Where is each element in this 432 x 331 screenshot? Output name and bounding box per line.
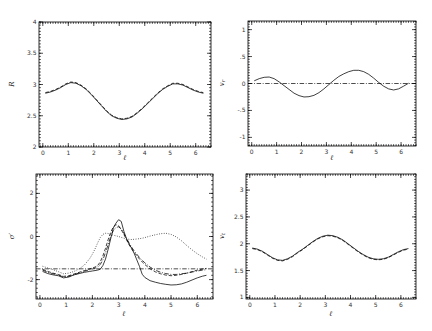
- svg-text:2.5: 2.5: [234, 213, 244, 220]
- svg-text:1.5: 1.5: [234, 267, 244, 274]
- svg-text:0: 0: [41, 149, 45, 156]
- svg-text:2: 2: [240, 240, 244, 247]
- svg-text:1: 1: [66, 149, 70, 156]
- svg-text:5: 5: [168, 149, 172, 156]
- panel-sigma-svg: 0123456-202: [0, 166, 216, 331]
- svg-text:0: 0: [250, 148, 254, 155]
- svg-text:2: 2: [30, 189, 34, 196]
- svg-text:6: 6: [194, 149, 198, 156]
- x-axis-label-panel-sigma: ℓ: [123, 311, 126, 318]
- svg-text:4: 4: [349, 148, 353, 155]
- panel-R: 012345622.533.54: [0, 0, 216, 166]
- panel-R-svg: 012345622.533.54: [0, 0, 216, 166]
- svg-text:5: 5: [169, 301, 173, 308]
- svg-text:1: 1: [273, 301, 277, 308]
- y-axis-label-vr: vr: [219, 80, 228, 86]
- svg-text:4: 4: [143, 149, 147, 156]
- svg-text:0: 0: [38, 301, 42, 308]
- four-panel-line-figure: 012345622.533.54 0123456-1-.50.51 012345…: [0, 0, 432, 331]
- svg-text:.5: .5: [240, 53, 246, 60]
- svg-text:6: 6: [399, 301, 403, 308]
- svg-text:-2: -2: [28, 276, 34, 283]
- svg-text:0: 0: [30, 233, 34, 240]
- panel-vt: 012345611.522.53: [216, 166, 432, 331]
- y-axis-label-vr-sub: r: [220, 80, 226, 82]
- x-axis-label-panel-vr: ℓ: [331, 155, 334, 162]
- y-axis-label-vr-main: v: [218, 82, 226, 86]
- svg-text:2: 2: [90, 301, 94, 308]
- panel-sigma: 0123456-202: [0, 166, 216, 331]
- svg-text:1: 1: [64, 301, 68, 308]
- svg-text:2: 2: [300, 148, 304, 155]
- svg-text:-.5: -.5: [238, 106, 246, 113]
- svg-text:0: 0: [242, 80, 246, 87]
- y-axis-label-vt-sub: t: [220, 233, 226, 235]
- svg-text:2: 2: [33, 143, 37, 150]
- svg-text:2: 2: [298, 301, 302, 308]
- panel-vr: 0123456-1-.50.51: [216, 0, 432, 166]
- svg-text:1: 1: [240, 293, 244, 300]
- svg-text:4: 4: [349, 301, 353, 308]
- y-axis-label-vt-main: v: [218, 235, 226, 239]
- svg-text:0: 0: [248, 301, 252, 308]
- svg-text:5: 5: [374, 301, 378, 308]
- svg-text:4: 4: [143, 301, 147, 308]
- svg-text:3: 3: [240, 186, 244, 193]
- svg-text:6: 6: [399, 148, 403, 155]
- svg-text:3: 3: [323, 301, 327, 308]
- svg-text:1: 1: [275, 148, 279, 155]
- svg-text:5: 5: [374, 148, 378, 155]
- svg-text:3: 3: [33, 81, 37, 88]
- svg-text:3: 3: [324, 148, 328, 155]
- svg-text:2.5: 2.5: [27, 112, 37, 119]
- panel-vr-svg: 0123456-1-.50.51: [216, 0, 432, 166]
- svg-text:4: 4: [33, 18, 37, 25]
- x-axis-label-panel-R: ℓ: [124, 155, 127, 162]
- panel-vt-svg: 012345611.522.53: [216, 166, 432, 331]
- svg-text:3: 3: [117, 301, 121, 308]
- svg-text:3.5: 3.5: [27, 49, 37, 56]
- y-axis-label-vt: vt: [219, 233, 228, 239]
- y-axis-label-sigma-main: σ′: [8, 233, 16, 239]
- y-axis-label-sigma: σ′: [9, 233, 18, 239]
- y-axis-label-R-main: R: [8, 81, 16, 86]
- svg-text:3: 3: [117, 149, 121, 156]
- x-axis-label-panel-vt: ℓ: [330, 311, 333, 318]
- svg-text:2: 2: [92, 149, 96, 156]
- svg-text:-1: -1: [240, 133, 246, 140]
- svg-text:6: 6: [195, 301, 199, 308]
- svg-text:1: 1: [242, 26, 246, 33]
- y-axis-label-R: R: [9, 81, 18, 86]
